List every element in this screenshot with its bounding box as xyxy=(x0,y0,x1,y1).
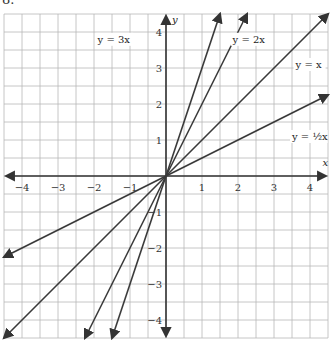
y-tick-label: 2 xyxy=(156,99,162,110)
y-tick-label: 4 xyxy=(156,27,162,38)
coordinate-plane-chart: xy −4−3−2−11234−4−3−2−11234 y = 3xy = 2x… xyxy=(0,0,333,351)
y-tick-label: −4 xyxy=(147,315,162,326)
x-tick-label: −4 xyxy=(15,182,30,193)
y-tick-label: −2 xyxy=(147,243,162,254)
x-tick-label: 3 xyxy=(271,182,277,193)
series-label: y = 3x xyxy=(97,34,131,45)
y-tick-label: 3 xyxy=(156,63,162,74)
x-axis-label: x xyxy=(323,157,329,168)
x-tick-label: 4 xyxy=(307,182,313,193)
series-label: y = x xyxy=(295,59,322,70)
x-tick-label: 1 xyxy=(199,182,205,193)
y-tick-label: −3 xyxy=(147,279,162,290)
x-tick-label: 2 xyxy=(235,182,241,193)
x-tick-label: −3 xyxy=(51,182,66,193)
series-label: y = 2x xyxy=(232,34,266,45)
y-axis-label: y xyxy=(171,14,178,25)
x-tick-label: −2 xyxy=(87,182,102,193)
y-tick-label: 1 xyxy=(156,135,162,146)
series-label: y = ½x xyxy=(291,131,328,142)
